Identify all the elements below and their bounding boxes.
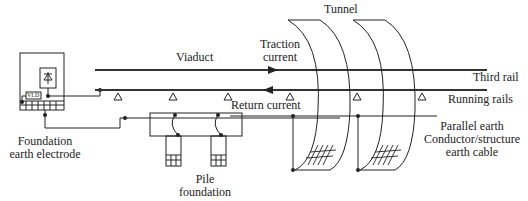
- parallel-earth-label: Parallel earth Conductor/structure earth…: [412, 120, 528, 159]
- foundation-line2: earth electrode: [0, 148, 90, 161]
- vld-label: VLD: [27, 92, 39, 99]
- tunnel-section-2: [353, 20, 415, 170]
- traction-arrow-icon: [268, 66, 278, 74]
- foundation-earth-electrode-label: Foundation earth electrode: [0, 135, 90, 161]
- tunnel-label: Tunnel: [324, 3, 358, 16]
- running-rails-label: Running rails: [448, 93, 513, 106]
- return-arrow-icon: [263, 86, 273, 94]
- substation: [20, 53, 64, 110]
- parallel-earth-line3: earth cable: [412, 146, 528, 159]
- pile-foundation-label: Pile foundation: [165, 173, 245, 199]
- traction-current-line2: current: [245, 51, 315, 64]
- pile-line2: foundation: [165, 186, 245, 199]
- pile-foundation: [150, 113, 242, 166]
- third-rail-label: Third rail: [473, 71, 519, 84]
- viaduct-label: Viaduct: [176, 51, 213, 64]
- traction-current-label: Traction current: [245, 38, 315, 64]
- return-current-label: Return current: [231, 99, 301, 112]
